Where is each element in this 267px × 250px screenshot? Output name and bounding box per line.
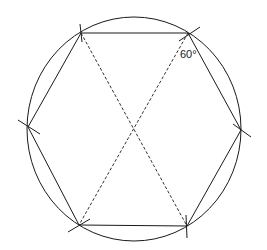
diagonal-dashed-1 (81, 33, 187, 226)
hexagon-diagram: 60° (0, 0, 267, 250)
diagonal-dashed-2 (79, 33, 188, 225)
angle-label: 60° (180, 48, 197, 60)
